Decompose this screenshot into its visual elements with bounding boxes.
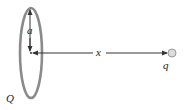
point-charge bbox=[168, 49, 176, 57]
radius-label: a bbox=[27, 24, 33, 36]
ring-charge-label: Q bbox=[6, 92, 14, 104]
ring-center-dot bbox=[30, 52, 32, 54]
ring-charge-diagram: a x Q q bbox=[0, 0, 185, 110]
distance-label: x bbox=[95, 46, 101, 58]
point-charge-label: q bbox=[163, 59, 169, 71]
